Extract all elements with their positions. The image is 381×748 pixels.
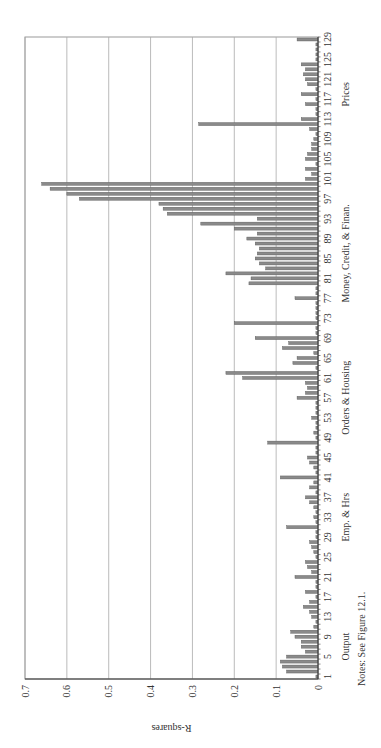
bar xyxy=(308,83,318,86)
bar xyxy=(305,68,318,71)
bar xyxy=(259,262,318,265)
bar xyxy=(280,476,318,479)
bar xyxy=(255,337,318,340)
bar xyxy=(301,118,318,121)
bar xyxy=(247,237,318,240)
bar xyxy=(199,123,318,126)
bar xyxy=(305,391,318,394)
bar xyxy=(303,73,318,76)
bar xyxy=(310,486,318,489)
bar xyxy=(293,361,318,364)
category-tick-label: 33 xyxy=(322,512,333,522)
bar xyxy=(301,645,318,648)
category-tick-label: 53 xyxy=(322,413,333,423)
bar xyxy=(314,431,318,434)
bar xyxy=(297,396,318,399)
bar xyxy=(305,167,318,170)
category-tick-label: 57 xyxy=(322,393,333,403)
value-tick-label: 0 xyxy=(313,685,324,690)
category-tick-label: 41 xyxy=(322,472,333,482)
bar xyxy=(295,575,318,578)
bar xyxy=(79,197,318,200)
bar xyxy=(310,461,318,464)
category-tick-label: 29 xyxy=(322,532,333,542)
category-tick-label: 85 xyxy=(322,253,333,263)
category-tick-label: 49 xyxy=(322,433,333,443)
group-label: Orders & Housing xyxy=(340,361,351,435)
bar xyxy=(266,267,318,270)
value-tick-label: 0.3 xyxy=(187,685,198,698)
category-tick-label: 117 xyxy=(322,92,333,107)
bar xyxy=(249,282,318,285)
value-tick-label: 0.7 xyxy=(20,685,31,698)
bar xyxy=(289,342,318,345)
plot-frame xyxy=(25,37,318,679)
bar xyxy=(312,416,318,419)
bar xyxy=(167,212,318,215)
value-tick-label: 0.2 xyxy=(229,685,240,698)
value-tick-label: 0.6 xyxy=(61,685,72,698)
category-tick-label: 9 xyxy=(322,634,333,639)
category-tick-label: 105 xyxy=(322,151,333,166)
bar xyxy=(67,192,318,195)
category-tick-label: 61 xyxy=(322,373,333,383)
category-tick-label: 77 xyxy=(322,293,333,303)
bar xyxy=(312,147,318,150)
category-tick-label: 113 xyxy=(322,112,333,127)
category-tick-label: 13 xyxy=(322,612,333,622)
bar xyxy=(255,257,318,260)
bar xyxy=(310,600,318,603)
bar xyxy=(314,352,318,355)
bar xyxy=(305,381,318,384)
bar xyxy=(314,506,318,509)
bar xyxy=(314,481,318,484)
bar xyxy=(305,650,318,653)
bar xyxy=(268,441,318,444)
value-tick-label: 0.4 xyxy=(145,685,156,698)
bar xyxy=(257,217,318,220)
bar xyxy=(301,93,318,96)
bar xyxy=(243,376,318,379)
group-label: Output xyxy=(340,633,351,661)
bar xyxy=(314,138,318,141)
category-tick-label: 17 xyxy=(322,592,333,602)
bar xyxy=(301,63,318,66)
category-tick-label: 45 xyxy=(322,453,333,463)
bar xyxy=(312,615,318,618)
bar xyxy=(257,232,318,235)
bar xyxy=(297,357,318,360)
category-tick-label: 25 xyxy=(322,552,333,562)
bar xyxy=(163,207,318,210)
bar xyxy=(305,561,318,564)
bar xyxy=(259,247,318,250)
bar xyxy=(308,566,318,569)
bar xyxy=(295,635,318,638)
category-tick-label: 65 xyxy=(322,353,333,363)
bar xyxy=(312,172,318,175)
bar xyxy=(308,152,318,155)
bar xyxy=(310,128,318,131)
category-tick-label: 1 xyxy=(322,674,333,679)
category-tick-label: 73 xyxy=(322,313,333,323)
bar xyxy=(234,227,318,230)
group-label: Prices xyxy=(340,82,351,107)
bar xyxy=(287,526,318,529)
gridlines xyxy=(25,37,318,679)
category-tick-label: 121 xyxy=(322,72,333,87)
bar xyxy=(301,640,318,643)
category-tick-label: 109 xyxy=(322,132,333,147)
bar xyxy=(226,272,318,275)
category-tick-label: 69 xyxy=(322,333,333,343)
bar xyxy=(305,78,318,81)
bar xyxy=(282,665,318,668)
bar xyxy=(308,456,318,459)
bar xyxy=(251,277,318,280)
category-tick-label: 21 xyxy=(322,572,333,582)
bar xyxy=(255,242,318,245)
bars xyxy=(42,38,318,678)
value-tick-label: 0.1 xyxy=(271,685,282,698)
bar xyxy=(310,541,318,544)
category-tick-label: 37 xyxy=(322,492,333,502)
bar xyxy=(310,610,318,613)
bar xyxy=(308,386,318,389)
